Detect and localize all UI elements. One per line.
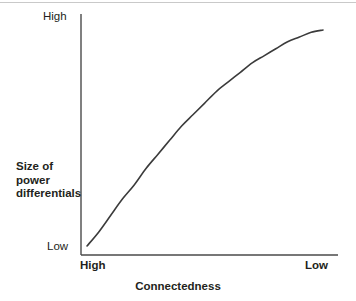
data-curve-series-1 xyxy=(87,30,323,246)
y-axis-title-line-1: Size of xyxy=(16,160,80,174)
y-axis-title: Size of power differentials xyxy=(16,160,80,201)
y-axis-title-line-2: power xyxy=(16,174,80,188)
x-axis-tick-high: High xyxy=(80,259,106,273)
x-axis-tick-low: Low xyxy=(305,259,328,273)
y-axis-title-line-3: differentials xyxy=(16,187,80,201)
y-axis-tick-high: High xyxy=(43,10,67,24)
plot-canvas xyxy=(0,0,356,301)
y-axis-tick-low: Low xyxy=(47,240,68,254)
x-axis-title: Connectedness xyxy=(0,280,356,294)
chart-figure: High Low High Low Connectedness Size of … xyxy=(0,0,356,301)
